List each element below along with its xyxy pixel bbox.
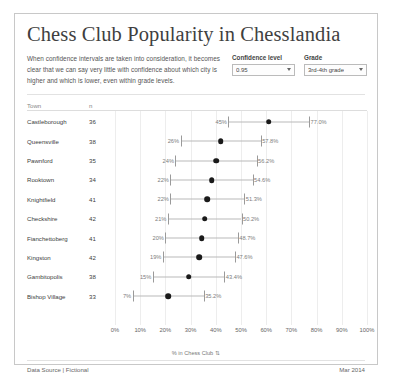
cell-town: Pawnford bbox=[27, 157, 89, 164]
cell-town: Knightfield bbox=[27, 196, 89, 203]
column-header-n: n bbox=[89, 102, 115, 109]
data-point[interactable] bbox=[186, 274, 192, 280]
data-point[interactable] bbox=[205, 196, 211, 202]
controls-group: Confidence level 0.95 Grade 3rd-4th grad… bbox=[232, 54, 367, 76]
ci-high-label: 57.8% bbox=[261, 138, 279, 144]
confidence-level-value: 0.95 bbox=[236, 67, 248, 73]
data-point[interactable] bbox=[202, 216, 208, 222]
ci-low-label: 24% bbox=[163, 157, 176, 163]
confidence-level-label: Confidence level bbox=[232, 54, 295, 61]
cell-n: 35 bbox=[89, 157, 115, 164]
x-axis-title: % in Chess Club⇅ bbox=[15, 350, 377, 356]
x-axis: 0%10%20%30%40%50%60%70%80%90%100% bbox=[115, 326, 367, 342]
ci-cap-low bbox=[175, 155, 176, 166]
ci-high-label: 54.6% bbox=[253, 177, 271, 183]
cell-n: 36 bbox=[89, 118, 115, 125]
x-axis-tick-label: 40% bbox=[210, 327, 222, 333]
table-row[interactable]: Bishop Village337%35.2% bbox=[27, 287, 367, 306]
table-row[interactable]: Knightfield4122%51.3% bbox=[27, 190, 367, 209]
table-row[interactable]: Rooktown3422%54.6% bbox=[27, 170, 367, 189]
cell-n: 41 bbox=[89, 235, 115, 242]
ci-low-label: 22% bbox=[158, 177, 171, 183]
cell-n: 38 bbox=[89, 138, 115, 145]
chevron-down-icon bbox=[287, 68, 291, 71]
confidence-level-select[interactable]: 0.95 bbox=[232, 64, 295, 76]
table-row[interactable]: Queensville3826%57.8% bbox=[27, 131, 367, 150]
ci-cap-low bbox=[170, 174, 171, 185]
ci-track: 22%51.3% bbox=[115, 190, 367, 209]
cell-town: Gambitopolis bbox=[27, 273, 89, 280]
table-header-rule bbox=[27, 110, 367, 111]
ci-low-label: 26% bbox=[168, 138, 181, 144]
grade-label: Grade bbox=[304, 54, 367, 61]
grade-control: Grade 3rd-4th grade bbox=[304, 54, 367, 76]
ci-track: 26%57.8% bbox=[115, 131, 367, 150]
x-axis-tick-label: 80% bbox=[311, 327, 323, 333]
gridline bbox=[367, 111, 368, 325]
table-row[interactable]: Checkshire4221%50.2% bbox=[27, 209, 367, 228]
cell-town: Queensville bbox=[27, 138, 89, 145]
table-row[interactable]: Fianchettoberg4120%48.7% bbox=[27, 228, 367, 247]
data-point[interactable] bbox=[218, 138, 224, 144]
x-axis-tick-label: 70% bbox=[286, 327, 298, 333]
table-row[interactable]: Kingston4219%47.6% bbox=[27, 248, 367, 267]
ci-cap-low bbox=[165, 233, 166, 244]
x-axis-title-text: % in Chess Club bbox=[172, 350, 213, 356]
data-point[interactable] bbox=[165, 293, 171, 299]
table-row[interactable]: Castleborough3645%77.0% bbox=[27, 112, 367, 131]
data-point[interactable] bbox=[209, 177, 215, 183]
x-axis-tick-label: 20% bbox=[160, 327, 172, 333]
ci-low-label: 19% bbox=[150, 254, 163, 260]
table-row[interactable]: Pawnford3524%56.2% bbox=[27, 151, 367, 170]
chevron-down-icon bbox=[359, 68, 363, 71]
cell-n: 41 bbox=[89, 196, 115, 203]
ci-cap-low bbox=[153, 271, 154, 282]
ci-cap-low bbox=[168, 213, 169, 224]
grade-select[interactable]: 3rd-4th grade bbox=[304, 64, 367, 76]
ci-track: 15%43.4% bbox=[115, 267, 367, 286]
date-label: Mar 2014 bbox=[339, 366, 365, 373]
cell-town: Rooktown bbox=[27, 176, 89, 183]
cell-n: 33 bbox=[89, 293, 115, 300]
ci-track: 7%35.2% bbox=[115, 287, 367, 306]
header-row: When confidence intervals are taken into… bbox=[27, 53, 377, 86]
x-axis-tick-label: 10% bbox=[134, 327, 146, 333]
ci-high-label: 47.6% bbox=[235, 254, 253, 260]
x-axis-tick-label: 50% bbox=[235, 327, 247, 333]
ci-low-label: 20% bbox=[153, 235, 166, 241]
ci-high-label: 50.2% bbox=[242, 215, 260, 221]
header-divider bbox=[27, 94, 365, 95]
ci-high-label: 56.2% bbox=[257, 157, 275, 163]
footer: Data Source | Fictional Mar 2014 bbox=[27, 366, 365, 373]
cell-town: Kingston bbox=[27, 254, 89, 261]
ci-low-label: 22% bbox=[158, 196, 171, 202]
ci-high-label: 77.0% bbox=[309, 118, 327, 124]
ci-high-label: 43.4% bbox=[224, 273, 242, 279]
cell-town: Checkshire bbox=[27, 215, 89, 222]
ci-cap-low bbox=[163, 252, 164, 263]
ci-track: 19%47.6% bbox=[115, 248, 367, 267]
x-axis-tick-label: 90% bbox=[336, 327, 348, 333]
cell-n: 42 bbox=[89, 254, 115, 261]
ci-cap-low bbox=[181, 136, 182, 147]
cell-n: 38 bbox=[89, 273, 115, 280]
ci-high-label: 35.2% bbox=[204, 293, 222, 299]
ci-track: 45%77.0% bbox=[115, 112, 367, 131]
ci-track: 24%56.2% bbox=[115, 151, 367, 170]
cell-town: Castleborough bbox=[27, 118, 89, 125]
ci-cap-low bbox=[170, 194, 171, 205]
ci-cap-low bbox=[228, 116, 229, 127]
data-point[interactable] bbox=[196, 255, 202, 261]
column-header-town: Town bbox=[27, 102, 89, 109]
data-point[interactable] bbox=[213, 158, 219, 164]
page-title: Chess Club Popularity in Chesslandia bbox=[27, 23, 377, 46]
data-point[interactable] bbox=[199, 235, 205, 241]
sort-icon[interactable]: ⇅ bbox=[215, 350, 220, 356]
grade-value: 3rd-4th grade bbox=[308, 67, 344, 73]
intro-text: When confidence intervals are taken into… bbox=[27, 53, 226, 86]
confidence-level-control: Confidence level 0.95 bbox=[232, 54, 295, 76]
data-source-label: Data Source | Fictional bbox=[27, 366, 89, 373]
table-row[interactable]: Gambitopolis3815%43.4% bbox=[27, 267, 367, 286]
x-axis-tick-label: 0% bbox=[111, 327, 119, 333]
data-point[interactable] bbox=[266, 119, 272, 125]
